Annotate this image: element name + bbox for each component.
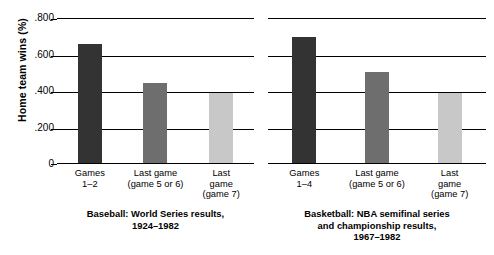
- category-label: Last game(game 5 or 6): [342, 168, 412, 200]
- category-label: Last game(game 5 or 6): [123, 168, 189, 200]
- category-label-line: Games: [57, 168, 123, 179]
- category-label: Lastgame(game 7): [188, 168, 254, 200]
- caption-line: 1924–1982: [47, 220, 264, 232]
- category-labels-baseball: Games1–2 Last game(game 5 or 6) Lastgame…: [57, 168, 254, 200]
- bar-group: [57, 19, 254, 163]
- bar: [365, 72, 389, 163]
- bar: [292, 37, 316, 163]
- panel-caption-basketball: Basketball: NBA semifinal seriesand cham…: [264, 208, 490, 243]
- y-tickmark: [51, 164, 57, 165]
- y-tick-label: .400: [10, 86, 54, 96]
- caption-line: Basketball: NBA semifinal series: [264, 208, 490, 220]
- plot-area: [57, 18, 486, 164]
- bar-group: [268, 19, 486, 163]
- category-label: Lastgame(game 7): [415, 168, 485, 200]
- y-tick-label: .800: [10, 13, 54, 23]
- panel-basketball: [268, 18, 486, 164]
- category-label-line: game: [188, 179, 254, 190]
- category-label-line: Last game: [342, 168, 412, 179]
- y-axis-ticks: .800 .600 .400 .200 0: [8, 0, 54, 175]
- category-label-line: Last: [415, 168, 485, 179]
- category-label-line: (game 7): [188, 189, 254, 200]
- y-tick-label: .200: [10, 123, 54, 133]
- bar: [209, 93, 233, 163]
- category-label: Games1–2: [57, 168, 123, 200]
- bar-chart: Home team wins (%) .800 .600 .400 .200 0: [0, 0, 494, 255]
- caption-line: and championship results,: [264, 220, 490, 232]
- category-label-line: 1–2: [57, 179, 123, 190]
- bar: [78, 44, 102, 163]
- caption-line: 1967–1982: [264, 231, 490, 243]
- category-label: Games1–4: [269, 168, 339, 200]
- category-label-line: Last: [188, 168, 254, 179]
- panel-caption-baseball: Baseball: World Series results,1924–1982: [47, 208, 264, 231]
- category-label-line: (game 5 or 6): [342, 179, 412, 190]
- panel-baseball: [57, 18, 254, 164]
- category-label-line: (game 5 or 6): [123, 179, 189, 190]
- category-label-line: Last game: [123, 168, 189, 179]
- y-tick-label: .600: [10, 50, 54, 60]
- bar: [143, 83, 167, 163]
- category-label-line: game: [415, 179, 485, 190]
- caption-line: Baseball: World Series results,: [47, 208, 264, 220]
- category-label-line: Games: [269, 168, 339, 179]
- category-labels-basketball: Games1–4 Last game(game 5 or 6) Lastgame…: [268, 168, 486, 200]
- y-tick-label: 0: [10, 159, 54, 169]
- category-label-line: (game 7): [415, 189, 485, 200]
- bar: [438, 93, 462, 163]
- category-label-line: 1–4: [269, 179, 339, 190]
